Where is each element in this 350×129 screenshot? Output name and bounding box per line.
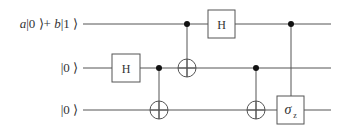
gate-label: σ (285, 102, 293, 117)
control-dot-icon (184, 21, 190, 27)
cnot-gate-2 (178, 21, 196, 77)
controlled-sigma-z-gate: σ z (277, 21, 304, 124)
cnot-gate-3 (247, 65, 265, 119)
hadamard-gate-q1: H (112, 54, 140, 82)
gate-subscript: z (293, 111, 297, 120)
gate-label: H (217, 18, 226, 32)
gate-label: H (122, 62, 131, 76)
quantum-circuit-diagram: a|0 ⟩+ b|1 ⟩ |0 ⟩ |0 ⟩ H H (0, 0, 350, 129)
hadamard-gate-q0: H (208, 10, 235, 38)
circuit-svg: H H σ z (0, 0, 350, 129)
control-dot-icon (288, 21, 294, 27)
control-dot-icon (253, 65, 259, 71)
control-dot-icon (156, 65, 162, 71)
cnot-gate-1 (150, 65, 168, 119)
